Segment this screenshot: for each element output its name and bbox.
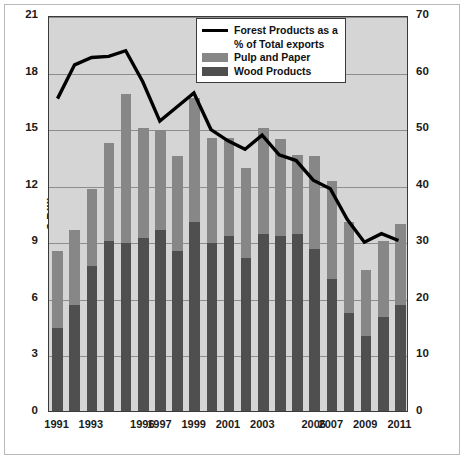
chart-legend: Forest Products as a % of Total exports … (196, 18, 346, 83)
x-tick-label: 2011 (377, 418, 421, 430)
right-tick-label: 30 (416, 234, 452, 246)
right-tick-label: 0 (416, 404, 452, 416)
legend-label-wood: Wood Products (234, 65, 311, 77)
chart-root: $ Billions % Share 211815129630 70605040… (0, 0, 464, 459)
right-tick-label: 10 (416, 347, 452, 359)
legend-label-pulp: Pulp and Paper (234, 51, 310, 63)
left-tick-label: 0 (2, 404, 38, 416)
x-tick-label: 1993 (69, 418, 113, 430)
left-tick-label: 18 (2, 65, 38, 77)
right-tick-label: 70 (416, 8, 452, 20)
right-tick-label: 20 (416, 291, 452, 303)
left-tick-label: 6 (2, 291, 38, 303)
x-tick-label: 2003 (240, 418, 284, 430)
legend-label-line-1: Forest Products as a (234, 24, 338, 36)
left-tick-label: 9 (2, 234, 38, 246)
blank-swatch-icon (202, 39, 228, 48)
left-tick-label: 3 (2, 347, 38, 359)
wood-swatch-icon (202, 67, 228, 76)
line-swatch-icon (202, 29, 228, 32)
left-tick-label: 12 (2, 178, 38, 190)
right-tick-label: 50 (416, 121, 452, 133)
right-tick-label: 40 (416, 178, 452, 190)
legend-item-line-cont: % of Total exports (202, 37, 338, 50)
legend-label-line-2: % of Total exports (234, 38, 324, 50)
legend-item-wood: Wood Products (202, 64, 338, 78)
left-tick-label: 15 (2, 121, 38, 133)
left-tick-label: 21 (2, 8, 38, 20)
legend-item-line: Forest Products as a (202, 23, 338, 37)
right-tick-label: 60 (416, 65, 452, 77)
legend-item-pulp: Pulp and Paper (202, 50, 338, 64)
pulp-swatch-icon (202, 53, 228, 62)
